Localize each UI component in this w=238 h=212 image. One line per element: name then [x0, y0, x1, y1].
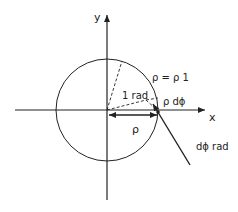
x-axis-label: x [209, 111, 216, 124]
one-rad-label: 1 rad [122, 90, 148, 101]
dphi-rad-label: dϕ rad [196, 141, 229, 152]
y-axis-label: y [94, 11, 101, 24]
polar-diagram: y x ρ = ρ 1 1 rad ρ dϕ ρ dϕ rad [0, 0, 238, 212]
arc-length-label: ρ dϕ [163, 96, 186, 107]
dashed-radius-upper [107, 61, 122, 110]
intersection-point [156, 110, 160, 114]
radius-label: ρ [132, 123, 139, 136]
dashed-radius-one-rad [107, 100, 146, 110]
circle-equation-label: ρ = ρ 1 [152, 72, 189, 83]
